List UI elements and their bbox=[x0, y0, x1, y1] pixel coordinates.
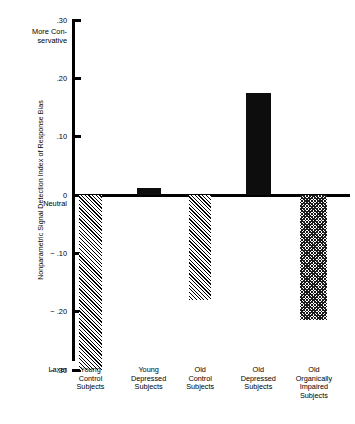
y-tick-label-010: .10 bbox=[21, 132, 67, 141]
y-tick-label-n020: − .20 bbox=[21, 307, 67, 316]
y-tick-label-n010: − .10 bbox=[21, 249, 67, 258]
x-label-old-control: Old Control Subjects bbox=[171, 366, 229, 392]
x-axis-labels: Young Control Subjects Young Depressed S… bbox=[72, 366, 355, 422]
y-tick-label-030: .30 bbox=[21, 16, 67, 25]
x-label-line: Impaired bbox=[300, 382, 328, 391]
annotation-more-conservative-line2: servative bbox=[37, 36, 67, 45]
x-label-line: Subjects bbox=[77, 382, 105, 391]
bar-young-depressed bbox=[137, 188, 161, 195]
x-label-line: Subjects bbox=[300, 391, 328, 400]
x-label-line: Organically bbox=[296, 374, 333, 383]
bar-old-control bbox=[189, 195, 211, 300]
x-label-line: Old bbox=[253, 365, 264, 374]
x-label-line: Depressed bbox=[131, 374, 166, 383]
bar-old-depressed bbox=[246, 93, 271, 195]
x-label-line: Control bbox=[188, 374, 212, 383]
x-label-line: Control bbox=[79, 374, 103, 383]
x-label-old-organically-impaired: Old Organically Impaired Subjects bbox=[285, 366, 343, 401]
x-label-line: Depressed bbox=[241, 374, 276, 383]
x-label-line: Young bbox=[80, 365, 100, 374]
bar-old-organically-impaired bbox=[300, 195, 327, 320]
x-label-old-depressed: Old Depressed Subjects bbox=[229, 366, 287, 392]
annotation-neutral: Neutral bbox=[17, 200, 67, 209]
x-label-line: Old bbox=[308, 365, 319, 374]
x-label-line: Young bbox=[138, 365, 158, 374]
annotation-more-conservative: More Con- servative bbox=[17, 28, 67, 45]
bar-young-control bbox=[79, 195, 102, 370]
annotation-laxer: Laxer bbox=[17, 366, 67, 375]
x-label-line: Subjects bbox=[186, 382, 214, 391]
x-label-line: Old bbox=[195, 365, 206, 374]
plot-area bbox=[72, 20, 350, 361]
x-label-young-depressed: Young Depressed Subjects bbox=[120, 366, 178, 392]
y-tick-label-020: .20 bbox=[21, 74, 67, 83]
x-label-line: Subjects bbox=[135, 382, 163, 391]
x-label-line: Subjects bbox=[244, 382, 272, 391]
x-label-young-control: Young Control Subjects bbox=[62, 366, 120, 392]
chart-figure: Nonparametric Signal Detection Index of … bbox=[0, 0, 355, 424]
